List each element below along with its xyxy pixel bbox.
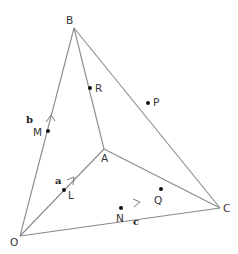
label-M: M [33, 126, 42, 138]
point-L [62, 188, 66, 192]
label-C: C [223, 202, 230, 214]
label-Q: Q [154, 194, 162, 206]
label-O: O [10, 236, 18, 248]
point-Q [159, 187, 163, 191]
vector-label-a: a [55, 175, 62, 186]
edge-OA [20, 149, 104, 236]
label-P: P [153, 96, 159, 108]
vector-label-b: b [26, 114, 33, 125]
vector-diagram: B A C O R P Q L M N a b c [0, 0, 238, 254]
point-R [88, 86, 92, 90]
point-M [46, 129, 50, 133]
label-B: B [66, 14, 73, 26]
vector-label-c: c [133, 216, 139, 227]
point-P [146, 101, 150, 105]
diagram-canvas: B A C O R P Q L M N a b c [0, 0, 238, 254]
label-L: L [68, 189, 74, 201]
label-N: N [116, 212, 124, 224]
label-R: R [95, 82, 102, 94]
label-A: A [101, 152, 109, 164]
arrowhead-c-icon [133, 199, 140, 207]
point-N [119, 206, 123, 210]
